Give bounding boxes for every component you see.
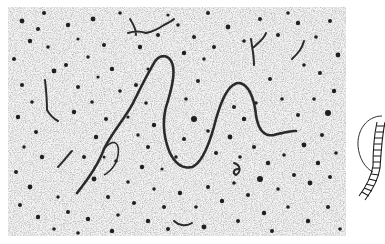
micrograph-svg	[8, 7, 346, 236]
schematic-svg	[355, 108, 385, 208]
dna-ladder	[359, 122, 385, 200]
dna-wrapping-schematic	[355, 108, 385, 208]
dna-electron-micrograph	[8, 7, 346, 236]
